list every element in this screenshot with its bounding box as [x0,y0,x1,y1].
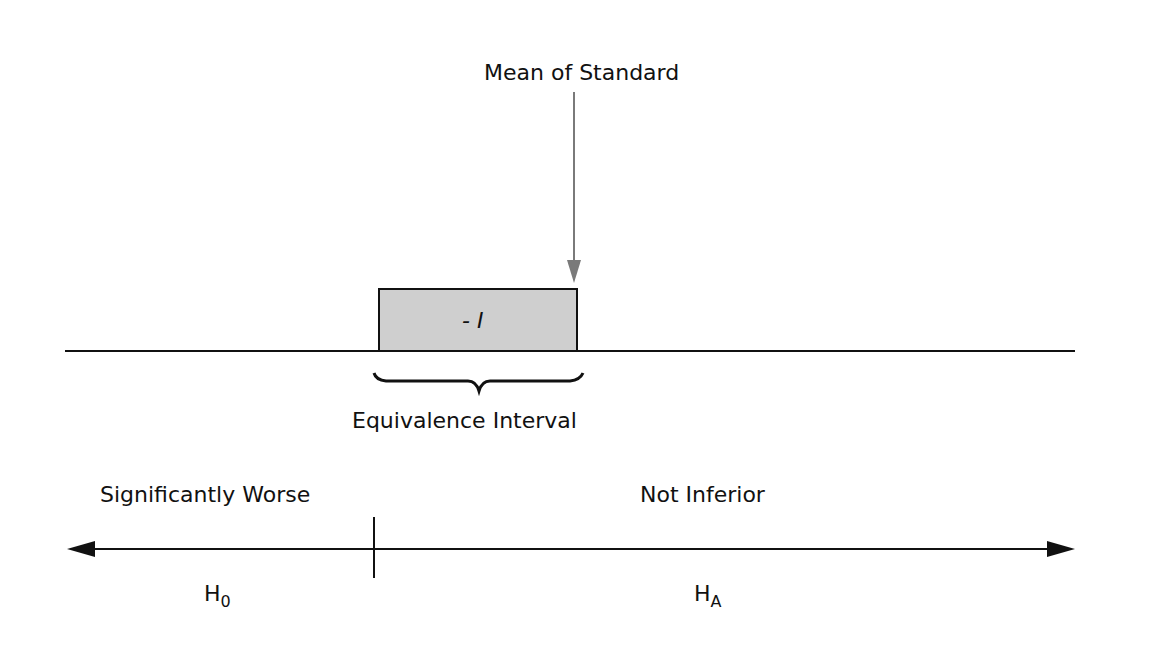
left-arrow-head-icon [67,541,95,557]
alt-hypothesis-sub: A [711,592,722,611]
equivalence-interval-label: Equivalence Interval [352,410,577,432]
null-hypothesis-label: H0 [204,583,231,610]
alt-hypothesis-label: HA [694,583,722,610]
box-label: - I [462,308,483,333]
diagram-canvas [0,0,1149,670]
null-hypothesis-sub: 0 [221,592,231,611]
alt-hypothesis-main: H [694,581,711,606]
curly-brace-icon [374,373,583,391]
mean-arrow-head-icon [567,260,581,283]
null-hypothesis-main: H [204,581,221,606]
mean-of-standard-label: Mean of Standard [484,62,679,84]
not-inferior-label: Not Inferior [640,484,765,506]
significantly-worse-label: Significantly Worse [100,484,310,506]
right-arrow-head-icon [1047,541,1075,557]
